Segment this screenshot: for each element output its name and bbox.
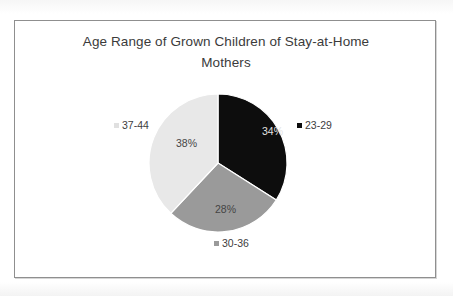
- pie-category-text-30-36: 30-36: [222, 237, 249, 249]
- pie-value-label-23-29: 34%: [262, 125, 283, 137]
- pie-category-label-23-29: 23-29: [297, 119, 332, 131]
- legend-marker-icon-30-36: [214, 241, 219, 246]
- pie-value-label-37-44: 38%: [176, 137, 197, 149]
- pie-value-label-30-36: 28%: [215, 203, 236, 215]
- pie-category-text-23-29: 23-29: [305, 119, 332, 131]
- legend-marker-icon-23-29: [297, 123, 302, 128]
- pie-category-label-30-36: 30-36: [214, 237, 249, 249]
- pie-category-text-37-44: 37-44: [122, 119, 149, 131]
- legend-marker-icon-37-44: [114, 123, 119, 128]
- pie-category-label-37-44: 37-44: [114, 119, 149, 131]
- chart-container: Age Range of Grown Children of Stay-at-H…: [14, 20, 436, 278]
- pie-chart-plot-area: 34% 28% 38% 23-29 30-36 37-44: [15, 21, 437, 279]
